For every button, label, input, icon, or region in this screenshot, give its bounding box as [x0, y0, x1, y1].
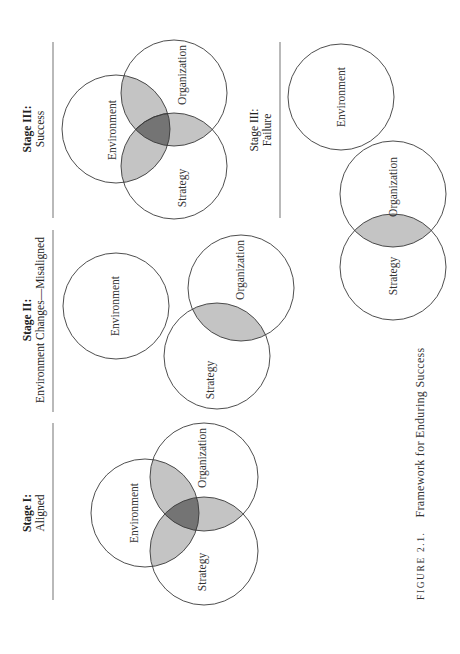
- stage-3-success-heading: Stage III:: [21, 106, 34, 153]
- stage-2-heading: Stage II:: [21, 299, 34, 342]
- stage-3-failure-subheading: Failure: [261, 114, 273, 147]
- overlap-org-str: [164, 303, 270, 409]
- strategy-label: Strategy: [196, 553, 209, 592]
- strategy-label: Strategy: [176, 169, 189, 208]
- stage-1-subheading: Aligned: [34, 494, 47, 531]
- stage-2-subheading: Environment Changes—Misaligned: [34, 237, 47, 403]
- figure-number: FIGURE 2.1.: [416, 531, 426, 600]
- strategy-label: Strategy: [204, 361, 217, 400]
- stage-1-heading: Stage I:: [21, 494, 34, 532]
- organization-label: Organization: [176, 45, 189, 105]
- environment-label: Environment: [109, 275, 121, 336]
- organization-label: Organization: [387, 157, 400, 217]
- stage-3-failure-heading: Stage III:: [248, 108, 261, 151]
- figure-title: Framework for Enduring Success: [413, 347, 427, 517]
- environment-label: Environment: [128, 482, 140, 543]
- figure-caption: FIGURE 2.1. Framework for Enduring Succe…: [410, 347, 427, 600]
- strategy-label: Strategy: [387, 257, 400, 296]
- panel-stage-3-success: Stage III: Success Environment Organizat…: [21, 40, 227, 219]
- environment-label: Environment: [106, 99, 118, 160]
- framework-diagram: Stage III: Success Environment Organizat…: [0, 0, 460, 654]
- panel-stage-2: Stage II: Environment Changes—Misaligned…: [21, 230, 294, 412]
- panel-stage-3-failure: Stage III: Failure Environment Organizat…: [248, 42, 446, 320]
- organization-label: Organization: [234, 240, 247, 300]
- panel-stage-1: Stage I: Aligned Environment Organizatio…: [21, 423, 258, 605]
- stage-3-success-subheading: Success: [34, 110, 46, 147]
- organization-label: Organization: [196, 428, 209, 488]
- svg-text:FIGURE 2.1. Framework fo: FIGURE 2.1. Framework for Enduring Succe…: [410, 347, 427, 600]
- environment-label: Environment: [335, 66, 347, 127]
